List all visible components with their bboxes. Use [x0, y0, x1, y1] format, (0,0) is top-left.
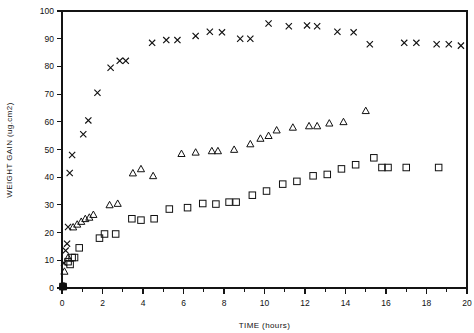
- data-point-x: [69, 152, 75, 158]
- x-tick-label: 4: [141, 298, 146, 308]
- data-point-triangle: [289, 124, 296, 130]
- data-point-square: [338, 166, 345, 173]
- y-tick-label: 0: [49, 283, 54, 293]
- data-point-square: [435, 164, 442, 171]
- data-point-square: [324, 171, 331, 178]
- data-point-square: [138, 217, 145, 224]
- data-point-triangle: [326, 120, 333, 126]
- data-point-square: [310, 173, 317, 180]
- data-point-triangle: [257, 135, 264, 141]
- data-point-triangle: [114, 200, 121, 206]
- x-tick-label: 6: [181, 298, 186, 308]
- data-point-square: [71, 254, 78, 261]
- data-point-x: [401, 40, 407, 46]
- data-point-square: [263, 188, 270, 195]
- data-point-x: [193, 33, 199, 39]
- data-point-x: [67, 170, 73, 176]
- data-point-square: [371, 155, 378, 162]
- y-tick-label: 70: [45, 89, 55, 99]
- x-axis-title: TIME (hours): [239, 321, 290, 330]
- data-point-x: [63, 248, 69, 254]
- data-point-x: [85, 117, 91, 123]
- data-point-square: [166, 206, 173, 213]
- data-point-x: [123, 58, 129, 64]
- y-tick-label: 30: [45, 200, 55, 210]
- data-point-square: [294, 178, 301, 185]
- y-tick-label: 100: [40, 6, 54, 16]
- data-point-triangle: [340, 118, 347, 124]
- data-point-x: [286, 23, 292, 29]
- data-point-square: [226, 199, 233, 206]
- y-tick-label: 40: [45, 172, 55, 182]
- data-point-triangle: [90, 211, 97, 217]
- data-point-square: [403, 164, 410, 171]
- x-tick-label: 14: [341, 298, 351, 308]
- data-point-square: [352, 161, 359, 168]
- data-point-triangle: [273, 127, 280, 133]
- data-point-x: [351, 29, 357, 35]
- data-point-square: [279, 181, 286, 188]
- data-point-x: [219, 29, 225, 35]
- data-point-x: [207, 29, 213, 35]
- data-point-square: [184, 204, 191, 211]
- y-axis-title: WEIGHT GAIN (ug.cm2): [5, 102, 14, 197]
- x-tick-label: 8: [222, 298, 227, 308]
- x-tick-label: 10: [260, 298, 270, 308]
- data-point-triangle: [178, 150, 185, 156]
- data-point-triangle: [192, 149, 199, 155]
- scatter-chart: 010203040506070809010002468101214161820T…: [0, 0, 474, 333]
- data-point-triangle: [137, 165, 144, 171]
- data-point-x: [64, 241, 70, 247]
- data-point-x: [413, 40, 419, 46]
- data-point-x: [265, 20, 271, 26]
- y-tick-label: 80: [45, 61, 55, 71]
- data-point-triangle: [129, 169, 136, 175]
- data-point-triangle: [265, 132, 272, 138]
- data-point-x: [117, 58, 123, 64]
- x-tick-label: 2: [100, 298, 105, 308]
- data-point-square: [249, 192, 256, 199]
- data-point-triangle: [65, 254, 72, 260]
- data-point-square: [76, 245, 83, 252]
- data-point-x: [94, 90, 100, 96]
- data-point-triangle: [247, 140, 254, 146]
- data-point-triangle: [362, 107, 369, 113]
- chart-canvas: 010203040506070809010002468101214161820T…: [0, 0, 474, 333]
- data-point-x: [367, 41, 373, 47]
- y-tick-label: 50: [45, 145, 55, 155]
- data-point-square: [379, 164, 386, 171]
- data-point-x: [304, 22, 310, 28]
- data-point-triangle: [314, 122, 321, 128]
- series-triangle: [59, 107, 369, 289]
- x-tick-label: 18: [422, 298, 432, 308]
- origin-marker-cluster: [59, 282, 67, 290]
- series-x: [60, 20, 464, 289]
- data-point-triangle: [150, 172, 157, 178]
- x-tick-label: 16: [381, 298, 391, 308]
- data-point-x: [458, 43, 464, 49]
- y-tick-label: 10: [45, 255, 55, 265]
- data-point-square: [199, 200, 206, 207]
- data-point-square: [233, 199, 240, 206]
- x-tick-label: 20: [462, 298, 472, 308]
- data-point-x: [434, 41, 440, 47]
- data-point-x: [334, 29, 340, 35]
- data-point-x: [446, 41, 452, 47]
- data-point-triangle: [305, 122, 312, 128]
- data-point-x: [237, 36, 243, 42]
- data-point-square: [151, 215, 158, 222]
- data-point-x: [163, 37, 169, 43]
- y-tick-label: 60: [45, 117, 55, 127]
- data-point-square: [385, 164, 392, 171]
- x-tick-label: 0: [60, 298, 65, 308]
- data-point-triangle: [214, 147, 221, 153]
- data-point-x: [314, 23, 320, 29]
- data-point-x: [108, 65, 114, 71]
- y-tick-label: 20: [45, 228, 55, 238]
- data-point-square: [213, 201, 220, 208]
- data-point-square: [112, 231, 119, 238]
- data-point-x: [80, 131, 86, 137]
- x-tick-label: 12: [300, 298, 310, 308]
- y-tick-label: 90: [45, 34, 55, 44]
- plot-frame: [62, 11, 467, 288]
